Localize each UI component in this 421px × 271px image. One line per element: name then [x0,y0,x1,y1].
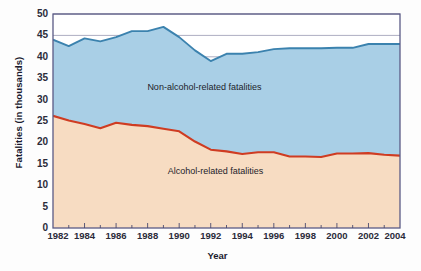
x-tick-label: 1986 [106,231,127,241]
x-axis-title: Year [0,250,421,261]
x-tick-label: 2002 [358,231,379,241]
x-tick-label: 1996 [263,231,284,241]
x-axis-title-text: Year [207,250,227,261]
x-axis-tick-labels: 1982198419861988199019921994199619982000… [0,231,421,247]
x-tick-label: 1992 [200,231,221,241]
x-tick-label: 1998 [295,231,316,241]
x-tick-label: 2000 [326,231,347,241]
x-tick-label: 1984 [74,231,95,241]
x-tick-label: 1990 [169,231,190,241]
alcohol-series-label: Alcohol-related fatalities [168,166,264,176]
non-alcohol-series-label: Non-alcohol-related fatalities [147,82,262,92]
x-tick-label: 2004 [384,231,405,241]
chart-figure: Fatalities (in thousands) 05101520253035… [0,0,421,271]
x-tick-label: 1994 [232,231,253,241]
x-tick-label: 1988 [137,231,158,241]
x-tick-label: 1982 [47,231,68,241]
